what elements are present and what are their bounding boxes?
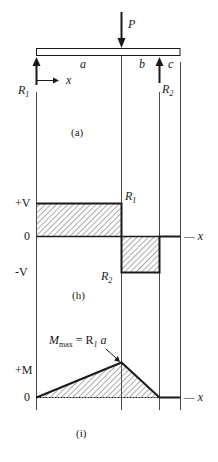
segment-a-label: a (80, 57, 86, 71)
max-moment-label: Mmax = R1 a (48, 333, 107, 349)
x-direction-label: x (65, 73, 72, 87)
right-reaction-label: R2 (161, 82, 173, 98)
minus-v-label: -V (15, 265, 28, 279)
moment-x-axis-label: — x (183, 390, 204, 404)
caption-i: (i) (76, 427, 87, 440)
load-label: P (127, 17, 136, 31)
right-reaction-arrow-icon (156, 57, 164, 83)
plus-m-label: +M (15, 363, 33, 377)
x-direction-arrow-icon (37, 78, 59, 84)
max-moment-pointer-arrow-icon (106, 349, 120, 362)
beam (37, 49, 181, 56)
shear-zero-label: 0 (24, 229, 30, 243)
positive-shear-region (37, 204, 122, 237)
segment-b-label: b (139, 57, 145, 71)
moment-diagram-panel: +M 0 Mmax = R1 a — x (i) (15, 333, 204, 440)
left-reaction-label: R1 (17, 83, 29, 99)
caption-h: (h) (72, 289, 85, 302)
load-arrow-icon (118, 12, 126, 48)
shear-r2-label: R2 (100, 269, 112, 285)
negative-shear-region (122, 237, 160, 273)
beam-diagram-figure: P x R1 R2 a b c (a) +V 0 -V (0, 0, 218, 462)
shear-x-axis-label: — x (183, 229, 204, 243)
shear-diagram-panel: +V 0 -V R1 R2 — x (h) (15, 189, 204, 302)
beam-panel: P x R1 R2 a b c (a) (17, 12, 180, 139)
plus-v-label: +V (15, 196, 31, 210)
caption-a: (a) (71, 126, 84, 139)
moment-zero-label: 0 (24, 390, 30, 404)
shear-r1-label: R1 (124, 189, 136, 205)
segment-c-label: c (168, 57, 174, 71)
